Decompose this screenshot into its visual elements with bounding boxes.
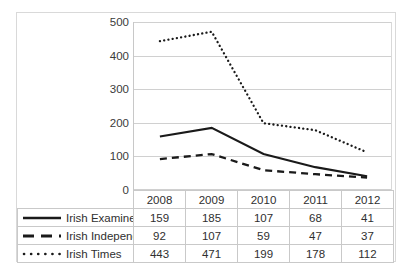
cell-times-2008: 443 [134, 245, 186, 263]
table-header-2011: 2011 [290, 191, 342, 209]
cell-examiner-2011: 68 [290, 209, 342, 227]
y-tick-400: 400 [89, 50, 129, 61]
legend-label-irish-times: Irish Times [66, 248, 122, 260]
data-table: 2008 2009 2010 2011 2012 Irish Examiner [17, 190, 394, 263]
y-tick-100: 100 [89, 151, 129, 162]
cell-independent-2009: 107 [186, 227, 238, 245]
plot-area [133, 22, 392, 190]
cell-times-2010: 199 [238, 245, 290, 263]
legend-item-irish-times: Irish Times [18, 245, 134, 263]
y-tick-300: 300 [89, 84, 129, 95]
table-corner-cell [18, 191, 134, 209]
cell-examiner-2012: 41 [342, 209, 394, 227]
cell-examiner-2008: 159 [134, 209, 186, 227]
series-plot [134, 22, 393, 190]
line-irish-times [160, 32, 367, 153]
legend-label-irish-examiner: Irish Examiner [66, 212, 134, 224]
table-header-2008: 2008 [134, 191, 186, 209]
table-header-row: 2008 2009 2010 2011 2012 [18, 191, 394, 209]
cell-independent-2008: 92 [134, 227, 186, 245]
line-irish-independent [160, 154, 367, 178]
cell-examiner-2009: 185 [186, 209, 238, 227]
legend-item-irish-examiner: Irish Examiner [18, 209, 134, 227]
cell-times-2011: 178 [290, 245, 342, 263]
table-row: Irish Independent 92 107 59 47 37 [18, 227, 394, 245]
legend-dotted-line-icon [22, 249, 62, 259]
table-row: Irish Examiner 159 185 107 68 41 [18, 209, 394, 227]
y-tick-500: 500 [89, 17, 129, 28]
y-tick-200: 200 [89, 117, 129, 128]
table-header-2012: 2012 [342, 191, 394, 209]
legend-label-irish-independent: Irish Independent [66, 230, 134, 242]
table-header-2010: 2010 [238, 191, 290, 209]
cell-times-2012: 112 [342, 245, 394, 263]
legend-item-irish-independent: Irish Independent [18, 227, 134, 245]
cell-independent-2011: 47 [290, 227, 342, 245]
y-axis: 500 400 300 200 100 0 [85, 22, 129, 190]
legend-solid-line-icon [22, 213, 62, 223]
line-irish-examiner [160, 128, 367, 176]
cell-times-2009: 471 [186, 245, 238, 263]
chart-container: 500 400 300 200 100 0 2008 200 [0, 0, 414, 277]
table-header-2009: 2009 [186, 191, 238, 209]
table-row: Irish Times 443 471 199 178 112 [18, 245, 394, 263]
cell-independent-2012: 37 [342, 227, 394, 245]
cell-examiner-2010: 107 [238, 209, 290, 227]
legend-dashed-line-icon [22, 231, 62, 241]
cell-independent-2010: 59 [238, 227, 290, 245]
